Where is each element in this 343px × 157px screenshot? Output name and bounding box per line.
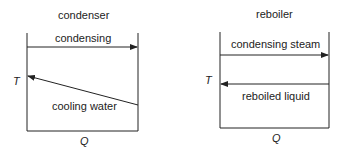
right-q-axis-label: Q xyxy=(272,132,281,144)
condensing-label: condensing xyxy=(55,32,111,44)
right-t-axis-label: T xyxy=(205,74,212,86)
condenser-plot xyxy=(27,33,138,131)
left-q-axis-label: Q xyxy=(80,135,89,147)
condenser-title: condenser xyxy=(58,9,109,21)
left-t-axis-label: T xyxy=(13,75,20,87)
reboiled-liquid-label: reboiled liquid xyxy=(242,90,310,102)
cooling-water-label: cooling water xyxy=(52,100,117,112)
diagram-canvas xyxy=(0,0,343,157)
reboiler-title: reboiler xyxy=(256,8,293,20)
condensing-steam-label: condensing steam xyxy=(231,38,320,50)
